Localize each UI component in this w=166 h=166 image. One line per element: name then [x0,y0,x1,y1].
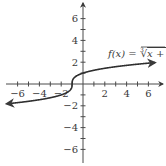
y-tick-label: 4 [72,35,78,46]
y-tick-label: 6 [72,13,78,24]
x-tick-label: −6 [10,88,25,99]
y-tick-label: −6 [63,144,78,155]
x-tick-label: −4 [32,88,47,99]
function-label: f(x) = 3√x + 1 [107,46,166,59]
x-tick-label: 6 [145,88,151,99]
y-tick-label: 2 [72,57,78,68]
x-tick-label: 2 [102,88,108,99]
function-graph: −6−4−2246642−2−4−6 f(x) = 3√x + 1 [0,0,166,166]
y-tick-label: −4 [63,122,78,133]
x-tick-label: 4 [123,88,129,99]
y-tick-label: −2 [63,100,78,111]
